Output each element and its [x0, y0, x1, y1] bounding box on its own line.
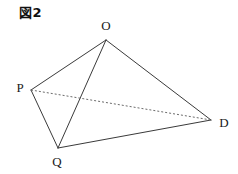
edge-O-D — [106, 40, 211, 120]
edge-group — [31, 40, 211, 148]
vertex-label-P: P — [16, 80, 23, 95]
edge-P-Q — [31, 90, 58, 148]
edge-Q-D — [58, 120, 211, 148]
vertex-label-O: O — [101, 18, 110, 33]
vertex-label-Q: Q — [52, 154, 62, 169]
vertex-label-group: O P Q D — [16, 18, 228, 169]
figure-container: 図2 O P Q D — [0, 0, 238, 174]
vertex-label-D: D — [219, 115, 228, 130]
edge-P-D — [31, 90, 211, 120]
tetrahedron-diagram: O P Q D — [0, 0, 238, 174]
